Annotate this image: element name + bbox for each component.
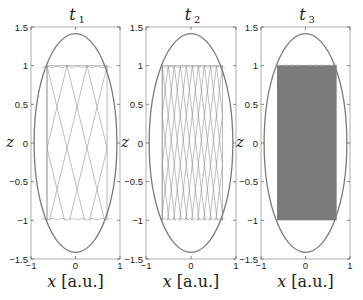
y-tick-label: 0.5 (15, 99, 28, 110)
subplot-title: t (299, 5, 306, 24)
subplot-title: t (69, 5, 76, 24)
trajectory-fill (277, 66, 337, 221)
x-axis-label: x [a.u.] (163, 272, 220, 291)
x-tick-label: 0 (73, 260, 78, 271)
x-tick-label: −1 (141, 260, 152, 271)
y-tick-label: 1 (253, 60, 258, 71)
x-tick-label: 0 (188, 260, 193, 271)
y-tick-label: −0.5 (9, 176, 28, 187)
y-tick-label: 1.5 (245, 22, 258, 33)
y-tick-label: 0.5 (130, 99, 143, 110)
y-tick-label: 0 (253, 138, 258, 149)
y-tick-label: 1 (138, 60, 143, 71)
x-tick-label: −1 (26, 260, 37, 271)
axes-box (31, 27, 120, 259)
x-tick-label: −1 (256, 260, 267, 271)
x-tick-label: 1 (117, 260, 122, 271)
y-tick-label: 1 (23, 60, 28, 71)
y-tick-label: −1 (247, 215, 258, 226)
plot-area (264, 34, 347, 253)
y-tick-label: 1.5 (130, 22, 143, 33)
y-tick-label: 0 (138, 138, 143, 149)
y-tick-label: −0.5 (124, 176, 143, 187)
y-axis-label: z (5, 133, 14, 151)
subplot-title: t (185, 5, 192, 24)
x-tick-label: 1 (347, 260, 352, 271)
subplot-title-subscript: 2 (194, 14, 200, 25)
y-axis-label: z (235, 133, 244, 151)
y-tick-label: 0 (23, 138, 28, 149)
subplot-title-subscript: 1 (79, 14, 85, 25)
x-tick-label: 0 (303, 260, 308, 271)
x-axis-label: x [a.u.] (47, 272, 104, 291)
x-axis-label: x [a.u.] (277, 272, 334, 291)
y-tick-label: −0.5 (239, 176, 258, 187)
y-axis-label: z (120, 133, 129, 151)
y-tick-label: 1.5 (15, 22, 28, 33)
y-tick-label: −1 (17, 215, 28, 226)
figure: 1.510.50−0.5−1−1.5−101t1x [a.u.]z1.510.5… (0, 0, 363, 300)
y-tick-label: 0.5 (245, 99, 258, 110)
y-tick-label: −1 (132, 215, 143, 226)
x-tick-label: 1 (233, 260, 238, 271)
subplot-3: 1.510.50−0.5−1−1.5−101t3x [a.u.]z (235, 5, 353, 291)
subplot-title-subscript: 3 (309, 14, 315, 25)
